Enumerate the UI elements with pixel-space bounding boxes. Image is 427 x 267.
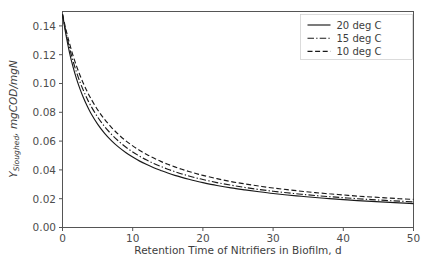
y-tick-label: 0.00 bbox=[33, 221, 56, 233]
chart-legend: 20 deg C15 deg C10 deg C bbox=[301, 15, 413, 60]
chart-canvas: 01020304050 0.000.020.040.060.080.100.12… bbox=[0, 0, 427, 267]
legend-label: 10 deg C bbox=[337, 46, 382, 57]
x-tick-label: 0 bbox=[59, 232, 66, 244]
x-tick-label: 30 bbox=[266, 232, 279, 244]
y-tick-label: 0.12 bbox=[33, 49, 56, 61]
y-tick-label: 0.06 bbox=[33, 135, 57, 147]
legend-label: 20 deg C bbox=[337, 20, 382, 31]
y-axis-label-subscript: Sloughed bbox=[12, 136, 21, 172]
y-tick-label: 0.08 bbox=[33, 106, 56, 118]
y-tick-label: 0.10 bbox=[33, 77, 56, 89]
y-tick-label: 0.04 bbox=[33, 164, 57, 176]
x-tick-label: 10 bbox=[126, 232, 139, 244]
x-tick-label: 50 bbox=[407, 232, 420, 244]
x-axis-label: Retention Time of Nitrifiers in Biofilm,… bbox=[134, 244, 341, 256]
legend-label: 15 deg C bbox=[337, 33, 382, 44]
y-axis-label-units: , mgCOD/mgN bbox=[7, 60, 19, 136]
x-tick-label: 40 bbox=[337, 232, 350, 244]
y-tick-label: 0.14 bbox=[33, 20, 57, 32]
y-tick-label: 0.02 bbox=[33, 193, 56, 205]
chart-figure: 01020304050 0.000.020.040.060.080.100.12… bbox=[0, 0, 427, 267]
x-tick-label: 20 bbox=[196, 232, 209, 244]
